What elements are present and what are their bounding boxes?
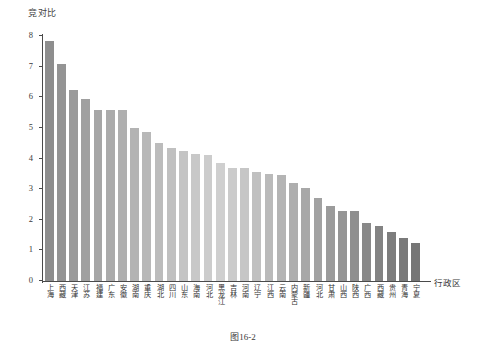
x-label-slot: 辽宁 <box>251 283 263 327</box>
x-axis-label: 山西 <box>339 284 346 298</box>
x-label-slot: 安徽 <box>116 283 128 327</box>
bar[interactable] <box>155 143 164 281</box>
bar[interactable] <box>362 223 371 281</box>
x-axis-label: 江西 <box>265 284 272 298</box>
bar-slot <box>312 36 324 281</box>
x-label-slot: 吉林 <box>226 283 238 327</box>
bar-slot <box>116 36 128 281</box>
bar[interactable] <box>289 183 298 281</box>
x-axis-label: 广东 <box>107 284 114 298</box>
x-label-slot: 陕西 <box>348 283 360 327</box>
x-axis-label: 河北 <box>314 284 321 298</box>
bar-slot <box>141 36 153 281</box>
x-axis-label: 上海 <box>46 284 53 298</box>
bar[interactable] <box>57 64 66 281</box>
bar[interactable] <box>314 198 323 281</box>
bar[interactable] <box>118 110 127 282</box>
bar[interactable] <box>45 41 54 281</box>
x-axis-label: 吉林 <box>229 284 236 298</box>
x-axis-label: 西藏 <box>58 284 65 298</box>
x-axis-label: 辽宁 <box>253 284 260 298</box>
bar-slot <box>104 36 116 281</box>
x-axis-label: 江苏 <box>82 284 89 298</box>
x-label-slot: 河北 <box>312 283 324 327</box>
bar[interactable] <box>375 226 384 281</box>
figure-caption: 图16-2 <box>0 330 486 343</box>
bar[interactable] <box>69 90 78 281</box>
x-axis-label: 福建 <box>94 284 101 298</box>
bar-slot <box>336 36 348 281</box>
bar[interactable] <box>142 132 151 281</box>
bar[interactable] <box>326 206 335 281</box>
bar-slot <box>300 36 312 281</box>
bar[interactable] <box>252 172 261 281</box>
bar[interactable] <box>265 174 274 281</box>
bar[interactable] <box>216 163 225 281</box>
x-axis-label: 宁夏 <box>412 284 419 298</box>
bar[interactable] <box>399 238 408 281</box>
bar[interactable] <box>106 110 115 282</box>
x-axis-title: 行政区 <box>434 276 461 288</box>
x-label-slot: 福建 <box>92 283 104 327</box>
x-axis-label: 河南 <box>241 284 248 298</box>
x-axis-label: 天津 <box>70 284 77 298</box>
x-label-slot: 广西 <box>361 283 373 327</box>
x-label-slot: 宁夏 <box>410 283 422 327</box>
x-axis-label: 黑龙江 <box>217 284 224 305</box>
bar[interactable] <box>277 175 286 281</box>
x-label-slot: 黑龙江 <box>214 283 226 327</box>
x-label-slot: 重庆 <box>141 283 153 327</box>
x-axis-category-labels: 上海西藏天津江苏福建广东安徽湖南重庆湖北四川山东海南河北黑龙江吉林河南辽宁江西云… <box>43 283 422 327</box>
x-label-slot: 广东 <box>104 283 116 327</box>
x-label-slot: 海南 <box>190 283 202 327</box>
bar[interactable] <box>191 154 200 281</box>
bar[interactable] <box>204 155 213 281</box>
x-axis-label: 西藏 <box>375 284 382 298</box>
bar-slot <box>397 36 409 281</box>
bar-slot <box>361 36 373 281</box>
y-tick-label: 3 <box>29 184 33 193</box>
bar[interactable] <box>81 99 90 281</box>
figure-container: 竞对比 012345678 上海西藏天津江苏福建广东安徽湖南重庆湖北四川山东海南… <box>0 0 486 351</box>
bar-slot <box>177 36 189 281</box>
x-label-slot: 湖南 <box>129 283 141 327</box>
bar[interactable] <box>411 243 420 281</box>
x-axis-label: 云南 <box>278 284 285 298</box>
bar[interactable] <box>350 211 359 281</box>
bar[interactable] <box>338 211 347 281</box>
bar-slot <box>373 36 385 281</box>
bar[interactable] <box>179 151 188 281</box>
x-label-slot: 河北 <box>202 283 214 327</box>
x-label-slot: 新疆 <box>300 283 312 327</box>
bar[interactable] <box>240 168 249 281</box>
x-label-slot: 贵州 <box>385 283 397 327</box>
bar-slot <box>67 36 79 281</box>
bar[interactable] <box>387 232 396 281</box>
x-axis-line <box>42 281 431 282</box>
bar[interactable] <box>228 168 237 281</box>
x-label-slot: 青海 <box>397 283 409 327</box>
bar[interactable] <box>301 188 310 281</box>
x-axis-label: 山东 <box>180 284 187 298</box>
x-axis-label: 贵州 <box>388 284 395 298</box>
x-axis-label: 重庆 <box>143 284 150 298</box>
y-tick-label: 4 <box>29 153 33 162</box>
y-tick-label: 0 <box>29 276 33 285</box>
x-label-slot: 河南 <box>239 283 251 327</box>
x-label-slot: 山东 <box>177 283 189 327</box>
y-tick-label: 8 <box>29 31 33 40</box>
bar[interactable] <box>130 128 139 281</box>
x-label-slot: 江苏 <box>80 283 92 327</box>
x-axis-label: 广西 <box>363 284 370 298</box>
y-tick-label: 1 <box>29 245 33 254</box>
bar-slot <box>410 36 422 281</box>
bar-slot <box>348 36 360 281</box>
x-axis-label: 内蒙古 <box>290 284 297 305</box>
plot-area: 012345678 <box>43 36 422 281</box>
x-axis-label: 海南 <box>192 284 199 298</box>
bar[interactable] <box>167 148 176 281</box>
x-label-slot: 西藏 <box>55 283 67 327</box>
bar[interactable] <box>94 110 103 282</box>
bar-slot <box>92 36 104 281</box>
bar-slot <box>43 36 55 281</box>
